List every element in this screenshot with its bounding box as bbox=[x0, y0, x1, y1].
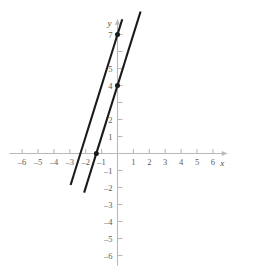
x-tick-label: –2 bbox=[80, 157, 90, 167]
axes-layer bbox=[9, 19, 227, 266]
tick-labels-layer: –6–5–4–3–2–1123456–6–5–4–3–2–112457 bbox=[17, 30, 215, 261]
x-tick-label: 1 bbox=[131, 157, 135, 167]
y-tick-label: –6 bbox=[103, 251, 113, 261]
coordinate-plane: –6–5–4–3–2–1123456–6–5–4–3–2–112457 x y bbox=[0, 0, 254, 271]
x-tick-label: 6 bbox=[211, 157, 215, 167]
y-axis-label: y bbox=[107, 18, 112, 28]
x-tick-label: 4 bbox=[179, 157, 184, 167]
y-tick-label: 7 bbox=[108, 30, 112, 40]
x-tick-label: 3 bbox=[163, 157, 167, 167]
x-tick-label: –6 bbox=[17, 157, 27, 167]
y-tick-label: –4 bbox=[103, 217, 113, 227]
x-tick-label: –4 bbox=[49, 157, 59, 167]
marked-points-layer bbox=[94, 32, 120, 156]
x-axis-arrow bbox=[222, 151, 228, 156]
y-tick-label: –5 bbox=[103, 234, 113, 244]
y-axis-arrow bbox=[115, 19, 120, 25]
marked-point bbox=[94, 151, 99, 156]
y-tick-label: –1 bbox=[103, 166, 113, 176]
y-tick-label: –3 bbox=[103, 200, 113, 210]
x-tick-label: 5 bbox=[195, 157, 199, 167]
marked-point bbox=[115, 32, 120, 37]
x-tick-label: –5 bbox=[33, 157, 43, 167]
x-axis-label: x bbox=[219, 158, 224, 168]
x-tick-label: –3 bbox=[65, 157, 75, 167]
y-tick-label: 1 bbox=[108, 132, 112, 142]
y-tick-label: –2 bbox=[103, 183, 113, 193]
y-tick-label: 4 bbox=[108, 81, 113, 91]
graph-canvas: –6–5–4–3–2–1123456–6–5–4–3–2–112457 x y bbox=[0, 0, 254, 271]
x-tick-label: 2 bbox=[147, 157, 151, 167]
marked-point bbox=[115, 83, 120, 88]
